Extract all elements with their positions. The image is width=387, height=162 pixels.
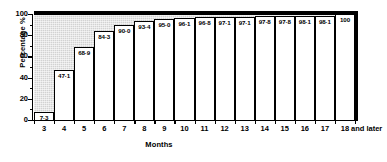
x-tick-label: 6 [102, 125, 106, 133]
bar: 90·0 [114, 25, 134, 120]
bar-value-label: 84·3 [98, 34, 110, 40]
bar-value-label: 97·8 [279, 19, 291, 25]
x-tick-mark [114, 120, 115, 124]
bar: 95·0 [154, 19, 174, 120]
x-axis-label: Months [34, 140, 284, 149]
x-tick-mark [355, 120, 356, 124]
bar-value-label: 97·1 [219, 20, 231, 26]
bar-value-label: 96·1 [178, 21, 190, 27]
y-tick-mark [28, 56, 32, 57]
bar: 97·1 [215, 17, 235, 120]
x-tick-label: 18 [341, 125, 349, 133]
y-axis-tick-labels: 020406080100 [6, 14, 28, 120]
bar: 98·1 [315, 16, 335, 120]
x-tick-label: 8 [142, 125, 146, 133]
x-tick-mark [215, 120, 216, 124]
bar: 100 [335, 14, 355, 120]
bar: 84·3 [94, 31, 114, 120]
bar-value-label: 98·1 [299, 19, 311, 25]
x-tick-label: 13 [240, 125, 248, 133]
x-tick-label: 10 [180, 125, 188, 133]
x-tick-label: 3 [42, 125, 46, 133]
y-tick-label: 100 [15, 10, 28, 18]
plot-right-border [355, 11, 359, 120]
y-tick-label: 60 [20, 53, 28, 61]
y-tick-mark [28, 35, 32, 36]
bar: 7·3 [34, 112, 54, 120]
x-tick-label: 4 [62, 125, 66, 133]
x-tick-mark [195, 120, 196, 124]
bar: 97·8 [275, 16, 295, 120]
x-tick-mark [335, 120, 336, 124]
bar-value-label: 100 [340, 17, 350, 23]
y-tick-mark-minor [30, 46, 32, 47]
x-tick-label: 5 [82, 125, 86, 133]
x-tick-label: 9 [162, 125, 166, 133]
bar: 97·8 [255, 16, 275, 120]
x-tick-label: 16 [301, 125, 309, 133]
y-tick-label: 80 [20, 31, 28, 39]
x-axis-tick-labels: 3456789101112131415161718and later [0, 125, 387, 137]
bar-value-label: 95·0 [158, 22, 170, 28]
x-tick-mark [94, 120, 95, 124]
x-tick-mark [255, 120, 256, 124]
x-tick-label: 15 [281, 125, 289, 133]
bar: 96·1 [174, 18, 194, 120]
x-tick-mark [235, 120, 236, 124]
x-tick-label: 12 [220, 125, 228, 133]
y-tick-mark [28, 99, 32, 100]
y-tick-label: 40 [20, 74, 28, 82]
x-tick-mark [174, 120, 175, 124]
bar: 47·1 [54, 70, 74, 120]
y-tick-mark-minor [30, 25, 32, 26]
bar-value-label: 97·1 [239, 20, 251, 26]
x-tick-mark [315, 120, 316, 124]
y-tick-mark-minor [30, 67, 32, 68]
x-tick-label: 17 [321, 125, 329, 133]
x-tick-label: 14 [261, 125, 269, 133]
x-tick-mark [275, 120, 276, 124]
bar-value-label: 98·1 [319, 19, 331, 25]
bar-value-label: 96·8 [199, 20, 211, 26]
x-tick-mark [34, 120, 35, 124]
x-tick-mark [54, 120, 55, 124]
y-tick-mark [28, 78, 32, 79]
y-tick-mark-minor [30, 88, 32, 89]
bar: 97·1 [235, 17, 255, 120]
y-tick-label: 20 [20, 95, 28, 103]
x-tick-mark [134, 120, 135, 124]
bar: 96·8 [195, 17, 215, 120]
x-tick-label: 7 [122, 125, 126, 133]
plot-area: 7·347·168·984·390·093·495·096·196·897·19… [34, 14, 355, 120]
y-tick-mark [28, 14, 32, 15]
chart-figure: Percentage % 020406080100 7·347·168·984·… [0, 0, 387, 162]
bar: 68·9 [74, 47, 94, 120]
bar: 93·4 [134, 21, 154, 120]
bar-value-label: 97·8 [259, 19, 271, 25]
bar-value-label: 47·1 [58, 73, 70, 79]
y-tick-mark-minor [30, 109, 32, 110]
x-tick-label-tail-note: and later [351, 125, 382, 133]
bar: 98·1 [295, 16, 315, 120]
x-tick-label: 11 [201, 125, 209, 133]
bar-series: 7·347·168·984·390·093·495·096·196·897·19… [34, 14, 355, 120]
bar-value-label: 93·4 [138, 24, 150, 30]
x-tick-mark [74, 120, 75, 124]
bar-value-label: 90·0 [118, 28, 130, 34]
x-axis-ticks [0, 120, 387, 124]
y-axis-spine [32, 14, 33, 120]
bar-value-label: 68·9 [78, 50, 90, 56]
x-tick-mark [154, 120, 155, 124]
plot-top-border [34, 11, 358, 15]
x-tick-mark [295, 120, 296, 124]
